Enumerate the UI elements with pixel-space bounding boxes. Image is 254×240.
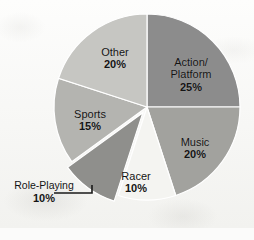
slice-value-racer: 10% <box>110 182 162 194</box>
slice-label-sports: Sports 15% <box>66 108 114 133</box>
slice-label-music-line1: Music <box>168 136 222 148</box>
slice-label-other: Other 20% <box>92 46 138 71</box>
slice-value-other: 20% <box>92 58 138 70</box>
slice-label-role-playing: Role-Playing 10% <box>2 180 86 204</box>
slice-label-role-playing-line1: Role-Playing <box>2 180 86 192</box>
slice-label-action-platform: Action/ Platform 25% <box>160 56 222 93</box>
slice-value-sports: 15% <box>66 120 114 132</box>
slice-label-other-line1: Other <box>92 46 138 58</box>
slice-value-music: 20% <box>168 148 222 160</box>
slice-label-action-platform-line1: Action/ <box>160 56 222 68</box>
slice-label-racer-line1: Racer <box>110 170 162 182</box>
slice-value-action-platform: 25% <box>160 81 222 93</box>
slice-label-music: Music 20% <box>168 136 222 161</box>
slice-value-role-playing: 10% <box>2 192 86 204</box>
slice-label-action-platform-line2: Platform <box>160 68 222 80</box>
slice-label-sports-line1: Sports <box>66 108 114 120</box>
slice-label-racer: Racer 10% <box>110 170 162 195</box>
